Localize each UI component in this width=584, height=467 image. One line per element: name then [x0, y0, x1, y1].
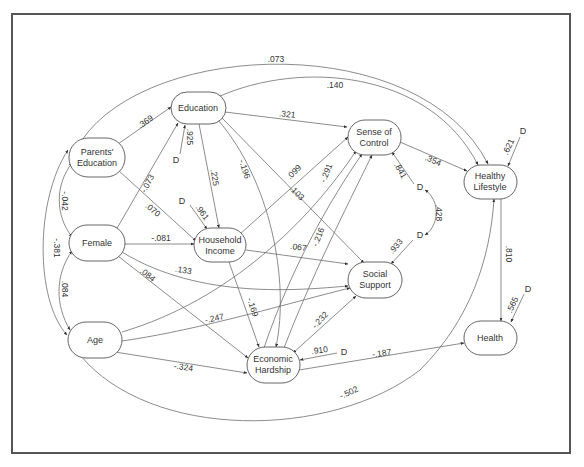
coef-dist-support: .933	[387, 236, 405, 255]
disturbance-lifestyle: D	[520, 126, 527, 136]
coef-hardship-control-a: -.291	[318, 162, 335, 184]
svg-text:Household: Household	[198, 235, 241, 245]
coef-parents-education-income: .070	[143, 201, 162, 219]
svg-text:Income: Income	[205, 246, 235, 256]
svg-text:Economic: Economic	[253, 354, 293, 364]
node-age: Age	[68, 322, 122, 358]
svg-text:Control: Control	[359, 138, 388, 148]
coef-hardship-support: -.232	[310, 309, 331, 330]
dist-edge-education	[180, 125, 185, 154]
svg-text:Support: Support	[359, 280, 391, 290]
coef-education-hardship: -.196	[237, 158, 253, 180]
svg-text:Education: Education	[77, 158, 117, 168]
node-social-support: Social Support	[348, 262, 402, 298]
node-health: Health	[464, 321, 517, 355]
disturbance-health: D	[525, 284, 532, 294]
svg-text:Healthy: Healthy	[475, 171, 506, 181]
disturbance-education: D	[173, 155, 180, 165]
coef-dist-health: .565	[504, 295, 520, 314]
coef-income-support: .067	[290, 241, 308, 253]
coef-education-lifestyle: .140	[327, 80, 344, 90]
disturbance-support: D	[417, 230, 424, 240]
edge-income-to-support	[246, 250, 348, 264]
coef-dist-control: .841	[392, 161, 409, 181]
node-economic-hardship: Economic Hardship	[247, 347, 300, 383]
coef-age-support: -.247	[204, 311, 225, 325]
edge-age-to-support	[122, 288, 350, 341]
svg-text:Social: Social	[363, 269, 388, 279]
coef-female-support: .133	[175, 264, 193, 277]
coef-dist-lifestyle: .621	[500, 137, 516, 156]
coef-parents-education-lifestyle: .073	[268, 54, 285, 64]
disturbance-hardship: D	[341, 347, 348, 357]
node-sense-of-control: Sense of Control	[348, 120, 401, 155]
svg-text:Parents': Parents'	[81, 147, 114, 157]
coef-female-education: -.073	[138, 172, 156, 194]
disturbance-income: D	[179, 196, 186, 206]
coef-age-hardship: -.324	[173, 361, 194, 374]
disturbance-control: D	[417, 182, 424, 192]
coef-age-lifestyle: -.502	[338, 384, 360, 401]
coef-dist-education: .925	[185, 129, 195, 146]
coef-income-control: .099	[284, 162, 303, 181]
coef-parents-education-education: .369	[136, 113, 156, 131]
coef-education-support: .103	[288, 183, 307, 202]
coef-corr-female-age: .084	[60, 281, 70, 298]
svg-text:Age: Age	[87, 335, 103, 345]
nodes: Parents' Education Female Age Education …	[68, 92, 517, 383]
svg-text:Education: Education	[178, 103, 218, 113]
coef-hardship-control-b: -.216	[310, 226, 327, 248]
svg-text:Health: Health	[477, 333, 503, 343]
coef-corr-parents-education-female: -.042	[60, 191, 70, 211]
svg-text:Female: Female	[82, 238, 112, 248]
path-diagram: Parents' Education Female Age Education …	[0, 0, 584, 467]
coef-dist-income: .961	[194, 203, 212, 223]
coef-corr-parents-education-age: -.381	[52, 238, 62, 258]
svg-text:Sense of: Sense of	[356, 127, 392, 137]
node-female: Female	[69, 225, 125, 261]
coef-dist-hardship: .910	[311, 344, 329, 356]
node-household-income: Household Income	[194, 228, 246, 262]
node-healthy-lifestyle: Healthy Lifestyle	[464, 165, 517, 199]
node-parents-education: Parents' Education	[69, 138, 125, 177]
coef-female-income: -.081	[151, 233, 171, 243]
node-education: Education	[171, 92, 226, 124]
svg-text:Hardship: Hardship	[255, 365, 291, 375]
coef-control-lifestyle: .354	[424, 152, 443, 168]
coef-lifestyle-health: .810	[504, 246, 514, 263]
coef-education-control: .321	[279, 108, 297, 120]
coef-corr-d-control-d-support: .428	[434, 205, 444, 222]
edge-education-to-lifestyle	[218, 77, 478, 165]
edge-age-to-lifestyle	[80, 199, 494, 421]
svg-text:Lifestyle: Lifestyle	[473, 182, 506, 192]
coef-hardship-health: -.187	[371, 347, 392, 360]
